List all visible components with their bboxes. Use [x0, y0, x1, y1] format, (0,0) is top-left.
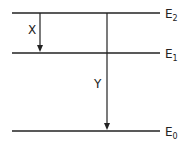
- level-e1-label: E1: [165, 47, 178, 63]
- energy-level-diagram: X Y E2 E1 E0: [0, 0, 185, 149]
- transition-x-arrowhead: [37, 45, 43, 52]
- level-e0-label: E0: [165, 125, 178, 141]
- level-e2-label: E2: [165, 7, 178, 23]
- transition-y-arrowhead: [104, 123, 110, 130]
- transition-x-label: X: [28, 23, 36, 37]
- transition-y-label: Y: [93, 77, 102, 91]
